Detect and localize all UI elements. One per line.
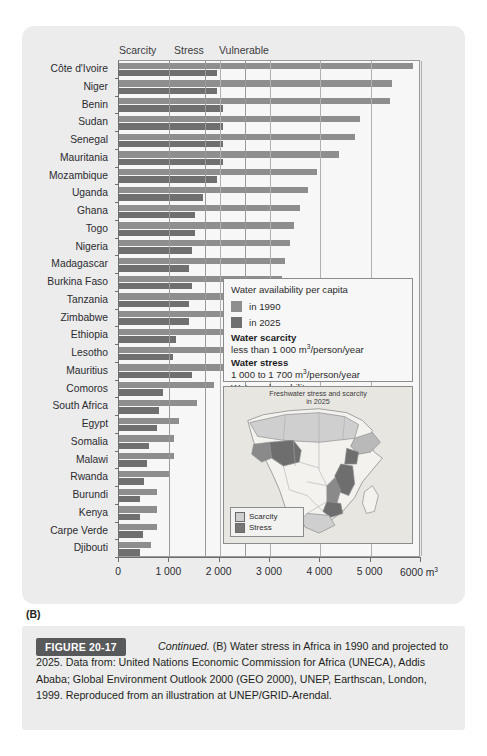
bar-2025 xyxy=(119,194,203,200)
x-axis-unit-exponent: 3 xyxy=(434,566,438,573)
bar-2025 xyxy=(119,425,157,431)
bar-row xyxy=(119,185,419,203)
bar-2025 xyxy=(119,88,217,94)
bar-1990 xyxy=(119,63,413,69)
category-label: Ethiopia xyxy=(71,326,108,344)
category-label: South Africa xyxy=(52,397,108,415)
bar-2025 xyxy=(119,283,192,289)
x-tick xyxy=(219,557,220,562)
category-label: Madagascar xyxy=(51,255,108,273)
caption-text: Continued. (B) Water stress in Africa in… xyxy=(36,638,452,704)
bar-row xyxy=(119,61,419,79)
threshold-line xyxy=(169,61,170,556)
caption-continued: Continued. xyxy=(158,640,210,652)
category-label: Burkina Faso xyxy=(47,273,108,291)
x-tick xyxy=(420,557,421,562)
bar-2025 xyxy=(119,478,144,484)
bar-1990 xyxy=(119,382,214,388)
legend-stress-heading: Water stress xyxy=(231,357,405,368)
threshold-column-headers: Scarcity Stress Vulnerable xyxy=(22,44,465,58)
x-tick xyxy=(118,557,119,562)
category-label: Mozambique xyxy=(49,167,108,185)
bar-1990 xyxy=(119,80,392,86)
bar-2025 xyxy=(119,247,192,253)
bar-2025 xyxy=(119,443,149,449)
category-label: Burundi xyxy=(73,486,109,504)
category-label: Djibouti xyxy=(74,539,108,557)
bar-2025 xyxy=(119,123,223,129)
legend-label-2025: in 2025 xyxy=(249,317,280,328)
header-scarcity: Scarcity xyxy=(119,44,156,56)
bar-2025 xyxy=(119,460,147,466)
category-label: Benin xyxy=(82,96,108,114)
bar-1990 xyxy=(119,506,157,512)
map-legend-stress: Stress xyxy=(235,522,299,533)
category-axis-labels: Côte d'IvoireNigerBeninSudanSenegalMauri… xyxy=(22,60,114,557)
category-label: Ghana xyxy=(77,202,108,220)
bar-2025 xyxy=(119,105,223,111)
bar-1990 xyxy=(119,418,179,424)
category-label: Kenya xyxy=(79,504,108,522)
caption-body: (B) Water stress in Africa in 1990 and p… xyxy=(36,640,448,701)
category-label: Niger xyxy=(83,78,108,96)
bar-1990 xyxy=(119,364,235,370)
bar-2025 xyxy=(119,354,173,360)
bar-2025 xyxy=(119,318,189,324)
bar-1990 xyxy=(119,524,157,530)
legend-item-1990: in 1990 xyxy=(231,299,405,314)
map-swatch-scarcity-icon xyxy=(235,512,245,522)
x-axis-unit-label: 6000 m3 xyxy=(400,566,438,578)
category-label: Senegal xyxy=(70,131,108,149)
map-legend-stress-label: Stress xyxy=(249,523,272,532)
bar-2025 xyxy=(119,549,140,555)
chart-panel-b: Scarcity Stress Vulnerable Côte d'Ivoire… xyxy=(22,26,465,604)
chart-legend: Water availability per capita in 1990 in… xyxy=(223,278,413,382)
swatch-2025-icon xyxy=(231,317,242,328)
category-label: Somalia xyxy=(71,433,108,451)
x-tick-label: 1 000 xyxy=(155,566,181,577)
category-label: Carpe Verde xyxy=(50,522,108,540)
x-tick-label: 5 000 xyxy=(357,566,383,577)
bar-2025 xyxy=(119,407,159,413)
bar-row xyxy=(119,239,419,257)
x-tick-label: 2 000 xyxy=(206,566,232,577)
swatch-1990-icon xyxy=(231,301,242,312)
panel-label-b: (B) xyxy=(26,608,41,620)
bar-1990 xyxy=(119,205,300,211)
category-label: Tanzania xyxy=(67,291,108,309)
bar-row xyxy=(119,97,419,115)
bar-1990 xyxy=(119,187,308,193)
bar-1990 xyxy=(119,489,157,495)
gridline xyxy=(220,61,221,556)
category-label: Lesotho xyxy=(71,344,108,362)
bar-row xyxy=(119,132,419,150)
legend-item-2025: in 2025 xyxy=(231,315,405,330)
map-legend: Scarcity Stress xyxy=(230,507,304,537)
bar-2025 xyxy=(119,389,163,395)
x-tick xyxy=(370,557,371,562)
x-tick-label: 4 000 xyxy=(306,566,332,577)
bar-1990 xyxy=(119,151,339,157)
scarcity-range-b: /person/year xyxy=(310,344,363,355)
category-label: Mauritania xyxy=(60,149,108,167)
bar-2025 xyxy=(119,301,189,307)
map-inset: Freshwater stress and scarcity in 2025 S… xyxy=(223,386,413,544)
bar-row xyxy=(119,150,419,168)
bar-1990 xyxy=(119,258,285,264)
bar-1990 xyxy=(119,98,390,104)
bar-row xyxy=(119,168,419,186)
bar-row xyxy=(119,114,419,132)
bar-2025 xyxy=(119,212,195,218)
bar-2025 xyxy=(119,265,189,271)
bar-2025 xyxy=(119,176,217,182)
legend-label-1990: in 1990 xyxy=(249,301,280,312)
x-tick xyxy=(269,557,270,562)
x-tick xyxy=(168,557,169,562)
category-label: Comoros xyxy=(66,380,108,398)
bar-1990 xyxy=(119,471,169,477)
threshold-line xyxy=(205,61,206,556)
map-legend-scarcity: Scarcity xyxy=(235,511,299,522)
x-tick xyxy=(319,557,320,562)
bar-row xyxy=(119,203,419,221)
map-inset-title: Freshwater stress and scarcity in 2025 xyxy=(224,390,412,407)
